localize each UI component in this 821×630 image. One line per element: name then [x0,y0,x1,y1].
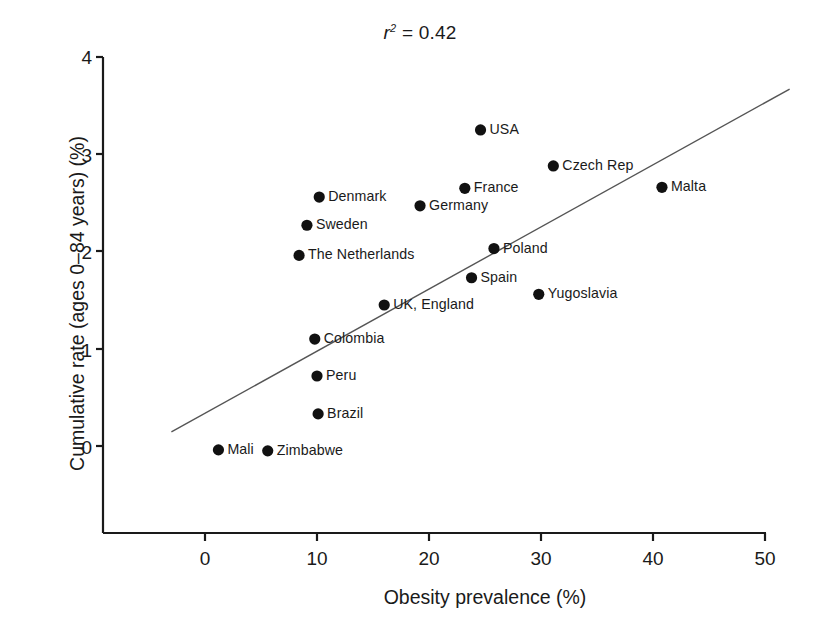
data-point-label: Mali [227,441,253,457]
data-point-label: France [474,179,519,195]
data-point-marker [301,220,312,231]
x-axis-ticks [205,533,765,541]
data-point-marker [459,183,470,194]
data-point-marker [213,444,224,455]
data-point-marker [262,445,273,456]
data-point-marker [656,182,667,193]
data-point-label: Germany [429,197,488,213]
data-point-marker [414,200,425,211]
data-point-label: Czech Rep [562,157,633,173]
data-point-marker [466,272,477,283]
data-point-label: Zimbabwe [277,442,343,458]
data-point-marker [311,370,322,381]
data-point-marker [488,243,499,254]
data-point-label: Malta [671,178,706,194]
data-point-marker [475,124,486,135]
data-point-label: Sweden [316,216,368,232]
data-point-label: USA [490,121,519,137]
data-point-label: Brazil [327,405,363,421]
data-point-label: Yugoslavia [548,285,618,301]
data-point-label: Spain [481,269,518,285]
data-point-label: Denmark [328,188,386,204]
data-point-label: Colombia [324,330,385,346]
data-point-marker [548,160,559,171]
data-point-marker [379,299,390,310]
data-point-label: Poland [503,240,548,256]
data-point-marker [533,289,544,300]
regression-fit-line [171,89,789,432]
plot-canvas [0,0,821,630]
data-point-label: UK, England [393,296,474,312]
data-point-marker [313,408,324,419]
data-point-marker [309,333,320,344]
scatter-plot-figure: r2 = 0.42 Cumulative rate (ages 0–84 yea… [0,0,821,630]
data-point-label: The Netherlands [308,246,414,262]
data-point-marker [314,191,325,202]
data-point-marker [293,250,304,261]
data-point-label: Peru [326,367,356,383]
